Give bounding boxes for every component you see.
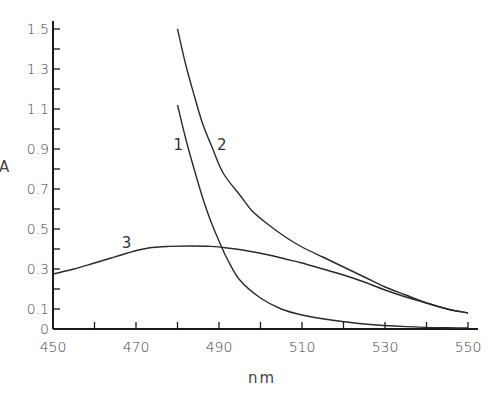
x-tick-label: 490 [206, 339, 233, 355]
curve-labels: 123 [122, 136, 227, 252]
x-tick-label: 450 [40, 339, 67, 355]
curve-label-1: 1 [174, 136, 184, 154]
curve-3 [53, 246, 468, 313]
x-axis-title: nm [248, 369, 276, 387]
x-tick-label: 470 [123, 339, 150, 355]
y-tick-label: 1.1 [27, 101, 49, 117]
y-tick-label: 1.5 [27, 21, 49, 37]
y-tick-label: 0.9 [27, 141, 49, 157]
y-axis-title: A [0, 158, 10, 176]
y-tick-label: 0 [40, 321, 49, 337]
y-ticks: 00.10.30.50.70.91.11.31.5 [27, 21, 60, 337]
y-tick-label: 0.7 [27, 181, 49, 197]
y-tick-label: 0.1 [27, 301, 49, 317]
curve-2 [178, 29, 469, 313]
x-tick-label: 550 [455, 339, 482, 355]
x-tick-label: 510 [289, 339, 316, 355]
absorbance-spectrum-chart: 00.10.30.50.70.91.11.31.5 45047049051053… [0, 0, 491, 396]
axes [53, 21, 478, 329]
y-tick-label: 0.5 [27, 221, 49, 237]
x-tick-label: 530 [372, 339, 399, 355]
curve-label-2: 2 [217, 136, 227, 154]
y-tick-label: 0.3 [27, 261, 49, 277]
curves [53, 29, 468, 328]
y-tick-label: 1.3 [27, 61, 49, 77]
curve-label-3: 3 [122, 234, 132, 252]
